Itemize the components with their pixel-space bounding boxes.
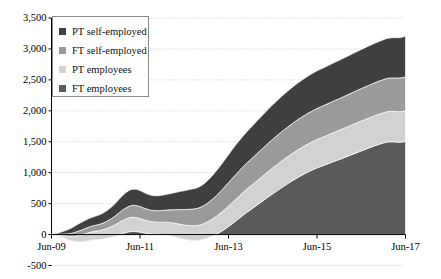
legend-item[interactable]: FT self-employed — [59, 41, 148, 60]
y-axis-tick-label: 1,000 — [23, 167, 47, 178]
legend-item-label: FT self-employed — [72, 45, 147, 56]
legend-item[interactable]: PT employees — [59, 60, 148, 79]
legend-item[interactable]: FT employees — [59, 79, 148, 98]
y-axis-tick-label: 2,500 — [23, 74, 47, 85]
legend-swatch-icon — [59, 47, 66, 54]
legend-swatch-icon — [59, 28, 66, 35]
y-axis-tick-label: 3,500 — [23, 12, 47, 23]
y-axis-tick-label: 0 — [41, 229, 46, 240]
x-axis-tick-label: Jun-15 — [287, 241, 347, 252]
x-axis-tick-label: Jun-13 — [199, 241, 259, 252]
x-axis-tick-label: Jun-17 — [376, 241, 436, 252]
legend-item-label: FT employees — [72, 83, 132, 94]
legend-swatch-icon — [59, 85, 66, 92]
x-axis-tick-label: Jun-11 — [110, 241, 170, 252]
legend-item-label: PT employees — [72, 64, 132, 75]
y-axis-tick-label: 1,500 — [23, 136, 47, 147]
legend-swatch-icon — [59, 66, 66, 73]
legend-item-label: PT self-employed — [72, 26, 147, 37]
legend-item[interactable]: PT self-employed — [59, 22, 148, 41]
y-axis-tick-label: -500 — [27, 260, 46, 271]
stacked-area-chart: 3,5003,0002,5002,0001,5001,0005000-500 J… — [0, 0, 441, 279]
y-axis-tick-label: 500 — [31, 198, 47, 209]
x-axis-tick-label: Jun-09 — [22, 241, 82, 252]
y-axis-tick-label: 2,000 — [23, 105, 47, 116]
y-axis-tick-label: 3,000 — [23, 43, 47, 54]
chart-legend: PT self-employedFT self-employedPT emplo… — [52, 16, 149, 97]
